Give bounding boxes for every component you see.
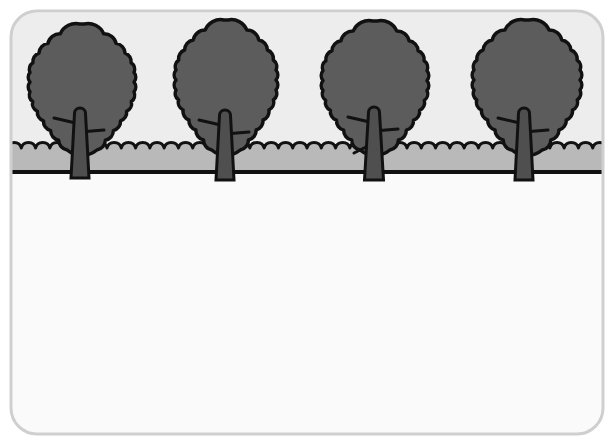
foreground-band [11, 173, 603, 432]
card-contents [7, 11, 607, 434]
illustration-canvas: Row of four trees on a hedge line Black-… [0, 0, 615, 445]
tree-3-trunk [365, 107, 384, 180]
tree-1-trunk [71, 108, 89, 178]
tree-4-trunk [515, 108, 533, 180]
tree-row-scene [0, 0, 615, 445]
tree-2-trunk [216, 110, 234, 180]
